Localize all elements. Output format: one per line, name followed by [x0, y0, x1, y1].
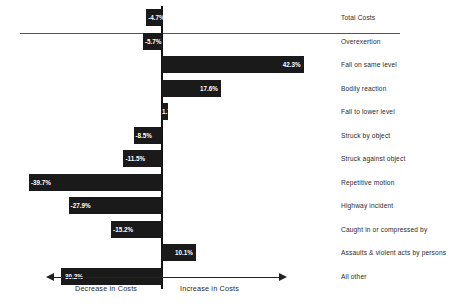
tornado-bar-chart: -4.7%Total Costs-5.7%Overexertion42.3%Fa…	[0, 0, 473, 308]
bar-row: 17.6%Bodily reaction	[0, 78, 473, 99]
category-label: Bodily reaction	[341, 80, 387, 97]
category-label: Fall to lower level	[341, 103, 395, 120]
bar-value-label: -15.2%	[111, 221, 162, 238]
bar-value-label: -5.7%	[143, 33, 162, 50]
bar-row: -4.7%Total Costs	[0, 7, 473, 28]
category-label: All other	[341, 268, 367, 285]
bar-value-label: 17.6%	[162, 80, 221, 97]
category-label: Repetitive motion	[341, 174, 395, 191]
bar-row: -11.5%Struck against object	[0, 148, 473, 169]
category-label: Struck by object	[341, 127, 390, 144]
category-label: Highway incident	[341, 197, 393, 214]
bar-value-label: -39.7%	[29, 174, 162, 191]
axis-caption-decrease: Decrease in Costs	[75, 284, 137, 293]
category-label: Total Costs	[341, 9, 375, 26]
bar-value-label: -30.2%	[61, 268, 162, 285]
bar-row: -27.9%Highway incident	[0, 195, 473, 216]
bar-row: -5.7%Overexertion	[0, 31, 473, 52]
category-label: Caught in or compressed by	[341, 221, 427, 238]
axis-caption-increase: Increase in Costs	[180, 284, 239, 293]
arrow-left-icon	[46, 273, 54, 281]
category-label: Overexertion	[341, 33, 381, 50]
plot-area: -4.7%Total Costs-5.7%Overexertion42.3%Fa…	[0, 0, 473, 308]
category-label: Fall on same level	[341, 56, 397, 73]
bar-row: 10.1%Assaults & violent acts by persons	[0, 242, 473, 263]
arrow-right-icon	[279, 273, 287, 281]
bar-row: 1.7%Fall to lower level	[0, 101, 473, 122]
bar-value-label: 10.1%	[162, 244, 196, 261]
bar-row: -15.2%Caught in or compressed by	[0, 219, 473, 240]
category-label: Assaults & violent acts by persons	[341, 244, 446, 261]
bar-row: 42.3%Fall on same level	[0, 54, 473, 75]
category-label: Struck against object	[341, 150, 405, 167]
bar-value-label: 1.7%	[162, 103, 168, 120]
bar-row: -39.7%Repetitive motion	[0, 172, 473, 193]
bottom-axis-line	[53, 277, 279, 278]
bar-value-label: -8.5%	[134, 127, 162, 144]
bar-value-label: -27.9%	[69, 197, 162, 214]
bar-value-label: -4.7%	[146, 9, 162, 26]
bar-row: -8.5%Struck by object	[0, 125, 473, 146]
bar-value-label: 42.3%	[162, 56, 304, 73]
bar-value-label: -11.5%	[123, 150, 162, 167]
